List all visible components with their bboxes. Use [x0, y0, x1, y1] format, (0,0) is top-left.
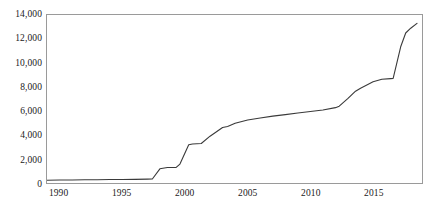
- x-tick-label: 2010: [291, 188, 331, 199]
- y-tick-label: 10,000: [0, 58, 42, 68]
- x-tick-label: 2000: [165, 188, 205, 199]
- y-tick-label: 4,000: [0, 130, 42, 140]
- x-tick-label: 2015: [354, 188, 394, 199]
- x-tick-label: 2005: [228, 188, 268, 199]
- line-chart: 02,0004,0006,0008,00010,00012,00014,000 …: [0, 0, 437, 211]
- y-tick-label: 8,000: [0, 82, 42, 92]
- x-axis: 199019952000200520102015: [0, 188, 437, 208]
- plot-area: [46, 14, 423, 184]
- y-tick-label: 14,000: [0, 9, 42, 19]
- y-tick-label: 12,000: [0, 33, 42, 43]
- plot-svg: [47, 15, 422, 183]
- y-tick-label: 6,000: [0, 106, 42, 116]
- x-tick-label: 1990: [39, 188, 79, 199]
- data-series-line: [47, 23, 417, 180]
- y-axis: 02,0004,0006,0008,00010,00012,00014,000: [0, 0, 42, 211]
- x-tick-label: 1995: [102, 188, 142, 199]
- y-tick-label: 2,000: [0, 155, 42, 165]
